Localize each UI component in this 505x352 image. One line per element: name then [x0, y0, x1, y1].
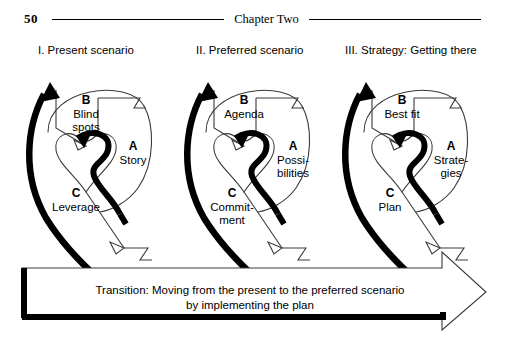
- panel-2-b-letter: B: [240, 93, 249, 107]
- panel-3-a-line2: gies: [440, 167, 461, 179]
- panel-3-a-letter: A: [447, 139, 456, 153]
- panel-2-cluster: B Agenda A Possi- bilities C Commit- men…: [187, 82, 310, 290]
- transition-line-1: Transition: Moving from the present to t…: [96, 284, 405, 296]
- panel-1-b-line2: spots: [72, 121, 100, 133]
- panel-1-c-line1: Leverage: [52, 201, 100, 213]
- panel-3-a-line1: Strate-: [434, 154, 469, 166]
- transition-arrow: Transition: Moving from the present to t…: [22, 252, 486, 330]
- panel-2-c-line2: ment: [219, 214, 245, 226]
- diagram-stage: B Blind spots A Story C Leverage B Agend…: [0, 0, 505, 352]
- panel-1-b-line1: Blind: [73, 108, 99, 120]
- panel-3-c-letter: C: [386, 186, 395, 200]
- panel-3-b-line1: Best fit: [384, 108, 420, 120]
- transition-line-2: by implementing the plan: [186, 299, 314, 311]
- panel-3-b-letter: B: [398, 93, 407, 107]
- panel-2-c-line1: Commit-: [210, 201, 254, 213]
- panel-2-a-line1: Possi-: [277, 154, 309, 166]
- panel-1-c-letter: C: [72, 186, 81, 200]
- panel-2-c-letter: C: [228, 186, 237, 200]
- scenario-diagram: B Blind spots A Story C Leverage B Agend…: [0, 0, 505, 352]
- panel-1-a-letter: A: [129, 139, 138, 153]
- panel-3-c-line1: Plan: [378, 201, 401, 213]
- panel-2-a-letter: A: [289, 139, 298, 153]
- panel-1-b-letter: B: [82, 93, 91, 107]
- panel-1-cluster: B Blind spots A Story C Leverage: [29, 82, 152, 290]
- panel-2-b-line1: Agenda: [224, 108, 264, 120]
- panel-2-a-line2: bilities: [277, 167, 309, 179]
- panel-1-a-line1: Story: [120, 154, 147, 166]
